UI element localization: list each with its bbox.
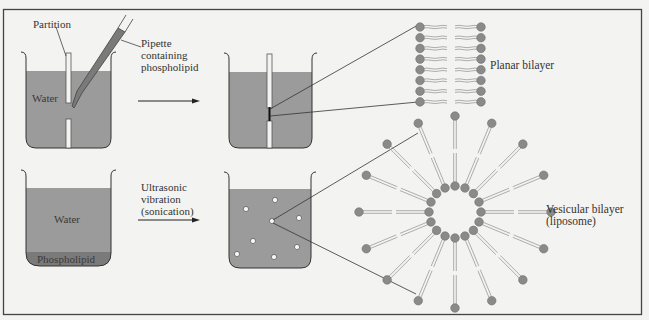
partition-leader xyxy=(56,27,66,56)
water-fill xyxy=(229,189,311,268)
pipette-label: Pipette containing phospholipid xyxy=(141,37,198,73)
partition-lower xyxy=(66,119,71,148)
arrow-top xyxy=(138,99,200,104)
lipid-bilayer-diagram: Partition Pipette containing phospholipi… xyxy=(0,0,649,320)
beaker-partition-pipette xyxy=(21,15,141,148)
sonication-label: Ultrasonic vibration (sonication) xyxy=(141,181,194,217)
pipette-leader xyxy=(121,40,141,47)
water-label-bottom: Water xyxy=(54,213,80,225)
planar-bilayer-label: Planar bilayer xyxy=(490,59,554,71)
partition-upper xyxy=(66,53,71,103)
phospholipid-label: Phospholipid xyxy=(37,253,95,265)
partition-label: Partition xyxy=(33,18,71,30)
liposome-label: Vesicular bilayer (liposome) xyxy=(546,203,624,227)
arrow-bottom xyxy=(138,218,200,223)
diagram-canvas xyxy=(0,0,649,320)
figure-frame xyxy=(4,10,642,315)
zoom-line-upper xyxy=(270,25,418,109)
beaker-planar-bilayer xyxy=(224,25,418,148)
water-label-top: Water xyxy=(32,92,58,104)
partition-upper xyxy=(267,54,272,108)
planar-bilayer xyxy=(416,23,486,107)
partition-lower xyxy=(267,121,272,148)
liposome xyxy=(355,112,556,313)
